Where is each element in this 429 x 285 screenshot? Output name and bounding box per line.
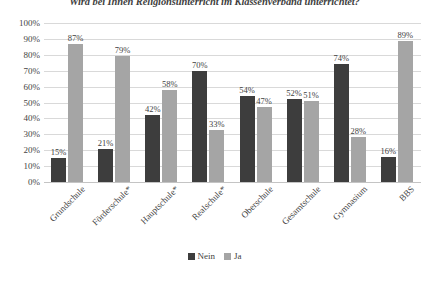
bar-value-label: 51% — [303, 91, 319, 100]
bar-value-label: 21% — [98, 139, 114, 148]
y-axis-tick-label: 40% — [0, 114, 40, 123]
chart-title: Wird bei Ihnen Religionsunterricht im Kl… — [0, 0, 429, 7]
bar-value-label: 33% — [209, 120, 225, 129]
bar-ja: 58% — [162, 90, 177, 182]
bar-ja: 89% — [398, 41, 413, 183]
legend-swatch-icon — [224, 253, 231, 260]
x-axis-tick-label: Hauptschule* — [139, 184, 181, 226]
y-axis-tick-label: 10% — [0, 162, 40, 171]
chart-legend: NeinJa — [0, 252, 429, 261]
bar-group: 16%89% — [374, 23, 421, 182]
y-axis-tick-label: 60% — [0, 82, 40, 91]
x-axis-tick-label: Grundschule — [47, 184, 87, 224]
bar-ja: 33% — [209, 130, 224, 182]
bar-value-label: 79% — [115, 46, 131, 55]
bar-value-label: 42% — [145, 105, 161, 114]
bar-value-label: 74% — [333, 54, 349, 63]
bar-group: 70%33% — [185, 23, 232, 182]
bar-value-label: 47% — [256, 97, 272, 106]
bar-value-label: 15% — [51, 148, 67, 157]
y-axis-tick-label: 20% — [0, 146, 40, 155]
legend-item-ja[interactable]: Ja — [224, 252, 242, 261]
y-axis-tick-label: 90% — [0, 34, 40, 43]
y-axis: 100%90%80%70%60%50%40%30%20%10%0% — [0, 23, 40, 182]
bar-nein: 21% — [98, 149, 113, 182]
x-axis-tick-label: Oberschule — [239, 184, 275, 220]
bar-value-label: 70% — [192, 61, 208, 70]
bar-ja: 79% — [115, 56, 130, 182]
bar-value-label: 89% — [398, 31, 414, 40]
bar-nein: 74% — [334, 64, 349, 182]
x-axis-tick-label: Gymnasium — [331, 184, 369, 222]
bar-value-label: 54% — [239, 86, 255, 95]
legend-item-nein[interactable]: Nein — [188, 252, 216, 261]
bar-value-label: 87% — [68, 34, 84, 43]
bar-nein: 54% — [240, 96, 255, 182]
bar-ja: 47% — [257, 107, 272, 182]
y-axis-tick-label: 0% — [0, 178, 40, 187]
bar-nein: 52% — [287, 99, 302, 182]
bar-nein: 70% — [192, 71, 207, 182]
gridline-0 — [44, 182, 421, 183]
bar-group: 52%51% — [280, 23, 327, 182]
bar-value-label: 16% — [381, 147, 397, 156]
legend-label: Ja — [234, 252, 242, 261]
y-axis-tick-label: 30% — [0, 130, 40, 139]
bar-group: 42%58% — [138, 23, 185, 182]
bar-nein: 42% — [145, 115, 160, 182]
bar-ja: 51% — [304, 101, 319, 182]
bar-group: 21%79% — [91, 23, 138, 182]
y-axis-tick-label: 100% — [0, 19, 40, 28]
x-axis-tick-label: Förderschule* — [90, 184, 133, 227]
y-axis-tick-label: 80% — [0, 50, 40, 59]
y-axis-tick-label: 70% — [0, 66, 40, 75]
legend-swatch-icon — [188, 253, 195, 260]
bar-chart-figure: Wird bei Ihnen Religionsunterricht im Kl… — [0, 0, 429, 285]
bars-layer: 15%87%21%79%42%58%70%33%54%47%52%51%74%2… — [44, 23, 421, 182]
bar-nein: 15% — [51, 158, 66, 182]
bar-group: 74%28% — [327, 23, 374, 182]
bar-value-label: 52% — [286, 89, 302, 98]
x-axis-tick-label: Realschule* — [190, 184, 228, 222]
bar-group: 54%47% — [233, 23, 280, 182]
bar-ja: 87% — [68, 44, 83, 182]
x-axis-tick-label: BBS — [397, 184, 416, 203]
x-axis: GrundschuleFörderschule*Hauptschule*Real… — [44, 184, 421, 254]
bar-group: 15%87% — [44, 23, 91, 182]
y-axis-tick-label: 50% — [0, 98, 40, 107]
x-axis-tick-label: Gesamtschule — [279, 184, 322, 227]
bar-value-label: 28% — [350, 127, 366, 136]
bar-value-label: 58% — [162, 80, 178, 89]
bar-ja: 28% — [351, 137, 366, 182]
bar-nein: 16% — [381, 157, 396, 182]
legend-label: Nein — [198, 252, 216, 261]
